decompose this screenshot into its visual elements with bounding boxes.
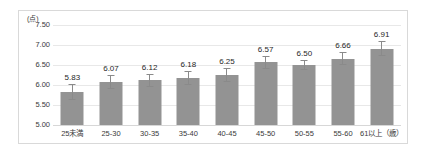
error-bar	[339, 52, 346, 65]
bar-value-label: 6.25	[219, 57, 235, 66]
y-tick-label: 5.00	[35, 121, 50, 129]
error-bar-cap	[107, 75, 114, 76]
error-bar-cap	[223, 68, 230, 69]
error-bar-cap	[301, 69, 308, 70]
bar	[331, 59, 354, 125]
bar-group: 5.83	[53, 25, 92, 125]
bar-group: 6.50	[285, 25, 324, 125]
error-bar	[378, 41, 385, 56]
error-bar-cap	[107, 88, 114, 89]
bar-value-label: 6.50	[297, 49, 313, 58]
y-tick-label: 5.50	[35, 101, 50, 109]
error-bar	[107, 75, 114, 89]
error-bar-stem	[381, 41, 382, 56]
error-bar-cap	[378, 41, 385, 42]
bar	[293, 65, 316, 125]
bar-group: 6.12	[130, 25, 169, 125]
bar-group: 6.57	[246, 25, 285, 125]
x-tick-label: 40-45	[217, 129, 236, 138]
bar-value-label: 6.18	[181, 60, 197, 69]
gridline	[53, 125, 401, 126]
error-bar-stem	[72, 84, 73, 100]
bar-group: 6.18	[169, 25, 208, 125]
bar-value-label: 6.66	[335, 41, 351, 50]
y-tick-label: 6.50	[35, 61, 50, 69]
error-bar-cap	[378, 55, 385, 56]
bar	[138, 80, 161, 125]
y-tick-label: 6.00	[35, 81, 50, 89]
error-bar-cap	[262, 56, 269, 57]
bar-value-label: 6.07	[103, 64, 119, 73]
x-tick-label: 61以上（歳）	[360, 129, 403, 138]
bar	[254, 62, 277, 125]
x-tick-label: 35-40	[179, 129, 198, 138]
y-tick-label: 7.50	[35, 21, 50, 29]
error-bar	[301, 60, 308, 70]
error-bar-cap	[185, 71, 192, 72]
error-bar-stem	[110, 75, 111, 89]
x-tick-label: 30-35	[140, 129, 159, 138]
bar	[177, 78, 200, 125]
error-bar-cap	[339, 52, 346, 53]
error-bar	[69, 84, 76, 100]
error-bar-stem	[226, 68, 227, 82]
error-bar	[185, 71, 192, 85]
error-bar-cap	[146, 86, 153, 87]
bar-value-label: 6.91	[374, 30, 390, 39]
x-tick-label: 25-30	[101, 129, 120, 138]
error-bar	[262, 56, 269, 69]
bar-value-label: 5.83	[65, 73, 81, 82]
error-bar-cap	[301, 60, 308, 61]
plot-area: 5.836.076.126.186.256.576.506.666.91	[53, 25, 401, 125]
error-bar-cap	[69, 84, 76, 85]
bar	[215, 75, 238, 125]
x-tick-label: 45-50	[256, 129, 275, 138]
error-bar	[223, 68, 230, 82]
x-tick-label: 50-55	[295, 129, 314, 138]
bar-group: 6.07	[92, 25, 131, 125]
y-tick-label: 7.00	[35, 41, 50, 49]
bars-layer: 5.836.076.126.186.256.576.506.666.91	[53, 25, 401, 125]
x-tick-label: 25未満	[61, 129, 83, 138]
error-bar-cap	[339, 64, 346, 65]
error-bar-cap	[262, 68, 269, 69]
x-axis: 25未満25-3030-3535-4040-4545-5050-5555-606…	[53, 127, 401, 143]
x-tick-label: 55-60	[333, 129, 352, 138]
bar-group: 6.91	[362, 25, 401, 125]
bar-value-label: 6.57	[258, 45, 274, 54]
bar-value-label: 6.12	[142, 63, 158, 72]
error-bar-cap	[146, 74, 153, 75]
error-bar-cap	[69, 99, 76, 100]
bar-group: 6.66	[324, 25, 363, 125]
y-axis: 7.507.006.506.005.505.00	[19, 25, 53, 125]
chart-frame: (点) 7.507.006.506.005.505.00 5.836.076.1…	[18, 10, 408, 144]
error-bar-cap	[223, 81, 230, 82]
error-bar	[146, 74, 153, 87]
bar-group: 6.25	[208, 25, 247, 125]
error-bar-cap	[185, 84, 192, 85]
error-bar-stem	[188, 71, 189, 85]
bar-chart: (点) 7.507.006.506.005.505.00 5.836.076.1…	[19, 11, 407, 143]
bar	[370, 49, 393, 125]
